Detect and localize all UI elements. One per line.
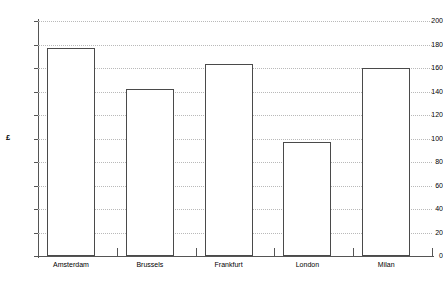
x-tick-label-london: London [267,261,347,269]
bar-amsterdam [47,48,95,256]
x-tick-separator [274,248,275,256]
bar-milan [362,68,410,256]
x-tick-separator [353,248,354,256]
y-axis-title: £ [6,134,10,142]
x-tick-label-brussels: Brussels [110,261,190,269]
y-tick-mark [34,256,38,257]
plot-area [38,21,432,256]
x-tick-separator [432,248,433,256]
bar-chart: £ 200180160140120100806040200 AmsterdamB… [0,0,443,283]
x-tick-label-amsterdam: Amsterdam [31,261,111,269]
bar-london [283,142,331,256]
x-tick-separator [117,248,118,256]
x-axis-line [38,256,434,257]
bar-frankfurt [205,64,253,256]
x-tick-label-frankfurt: Frankfurt [189,261,269,269]
x-tick-separator [38,248,39,256]
x-tick-separator [196,248,197,256]
bar-brussels [126,89,174,256]
x-tick-label-milan: Milan [346,261,426,269]
